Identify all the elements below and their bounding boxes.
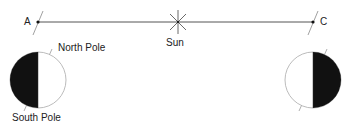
earth-left-icon	[10, 49, 66, 111]
earth-right-icon	[285, 49, 341, 111]
north-pole-label: North Pole	[58, 43, 105, 53]
point-c-label: C	[320, 17, 327, 27]
south-pole-label: South Pole	[12, 113, 61, 123]
point-a-label: A	[24, 17, 31, 27]
diagram-canvas	[0, 0, 355, 126]
sun-label: Sun	[166, 38, 184, 48]
point-a-dot	[36, 20, 39, 23]
point-c-dot	[311, 20, 314, 23]
